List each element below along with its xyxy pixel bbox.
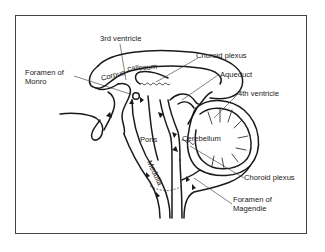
label-foramen-of-monro-2: Monro	[25, 77, 47, 86]
aqueduct-channel	[160, 100, 172, 218]
label-choroid-plexus-upper: Choroid plexus	[196, 51, 247, 60]
label-pons: Pons	[140, 135, 157, 144]
choroid-plexus-squiggle	[140, 83, 170, 85]
label-3rd-ventricle: 3rd ventricle	[100, 34, 141, 43]
brain-ventricle-diagram	[0, 0, 325, 252]
label-foramen-of-monro-1: Foramen of	[25, 68, 64, 77]
label-cerebellum: Cerebellum	[182, 134, 221, 143]
label-foramen-of-magendie-1: Foramen of	[233, 195, 272, 204]
label-aqueduct: Aqueduct	[220, 70, 252, 79]
label-4th-ventricle: 4th ventricle	[238, 89, 279, 98]
label-choroid-plexus-lower: Choroid plexus	[244, 173, 295, 182]
foramen-of-monro-marker	[133, 93, 140, 100]
label-foramen-of-magendie-2: Magendie	[233, 204, 266, 213]
